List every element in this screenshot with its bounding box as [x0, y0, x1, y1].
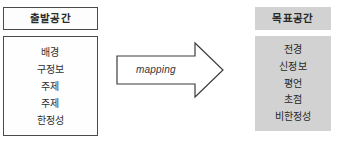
target-space-title: 목표공간: [272, 13, 313, 24]
source-item: 주제: [41, 99, 59, 109]
source-space-header: 출발공간: [3, 7, 98, 30]
source-item: 배경: [41, 48, 59, 58]
mapping-diagram: 출발공간 배경 구정보 주제 주제 한정성 mapping 목표공간 전경 신정…: [0, 0, 337, 144]
target-item: 초점: [284, 95, 302, 105]
source-space-title: 출발공간: [30, 13, 71, 24]
source-space-list: 배경 구정보 주제 주제 한정성: [3, 36, 98, 136]
source-item: 구정보: [37, 65, 65, 75]
target-space-header: 목표공간: [255, 7, 331, 30]
target-item: 전경: [284, 45, 302, 55]
target-space-list: 전경 신정보 평언 초점 비한정성: [255, 36, 331, 131]
source-item: 한정성: [37, 116, 65, 126]
target-item: 비한정성: [275, 112, 312, 122]
arrow-right-icon: [114, 40, 226, 100]
source-item: 주제: [41, 82, 59, 92]
target-item: 평언: [284, 79, 302, 89]
target-item: 신정보: [279, 62, 307, 72]
mapping-arrow: mapping: [114, 40, 226, 100]
